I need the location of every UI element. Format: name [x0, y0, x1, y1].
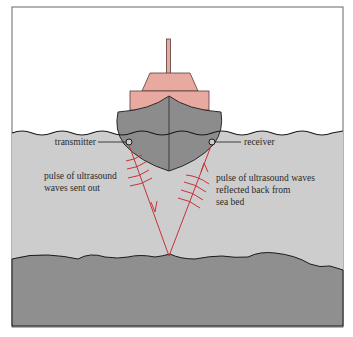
echo-sounding-diagram: transmitter receiver pulse of ultrasound… [0, 0, 353, 337]
sea-bed [12, 253, 343, 327]
ship-upper-cabin [142, 73, 198, 91]
reflected-label-line3: sea bed [216, 197, 244, 207]
transmitter-icon [126, 139, 132, 145]
transmitter-label: transmitter [55, 137, 97, 147]
sent-label-line1: pulse of ultrasound [44, 171, 117, 181]
receiver-icon [209, 139, 215, 145]
sent-label-line2: waves sent out [44, 183, 100, 193]
reflected-label-line1: pulse of ultrasound waves [216, 173, 315, 183]
ship-mast [167, 39, 171, 74]
receiver-label: receiver [244, 137, 275, 147]
reflected-label-line2: reflected back from [216, 185, 291, 195]
